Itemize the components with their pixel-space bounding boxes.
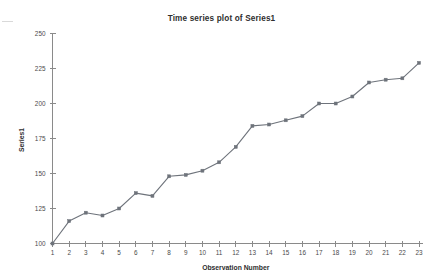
x-tick-label: 15 <box>282 249 290 256</box>
x-axis: 1234567891011121314151617181920212223 <box>51 241 423 256</box>
y-tick-label: 150 <box>35 170 46 177</box>
x-tick-label: 19 <box>349 249 357 256</box>
data-point-marker <box>384 78 387 81</box>
data-point-marker <box>68 220 71 223</box>
y-tick-label: 200 <box>35 100 46 107</box>
data-point-marker <box>284 119 287 122</box>
data-point-marker <box>418 61 421 64</box>
x-tick-label: 7 <box>151 249 155 256</box>
data-point-marker <box>368 81 371 84</box>
x-tick-label: 8 <box>167 249 171 256</box>
data-point-marker <box>401 77 404 80</box>
data-point-marker <box>318 102 321 105</box>
data-point-marker <box>134 192 137 195</box>
data-point-marker <box>51 242 54 245</box>
x-tick-label: 4 <box>101 249 105 256</box>
x-tick-label: 13 <box>249 249 257 256</box>
data-point-marker <box>101 214 104 217</box>
y-tick-label: 100 <box>35 240 46 247</box>
x-tick-label: 10 <box>199 249 207 256</box>
x-tick-label: 20 <box>365 249 373 256</box>
x-tick-label: 9 <box>184 249 188 256</box>
y-axis: 100125150175200225250 <box>35 30 56 247</box>
y-tick-label: 125 <box>35 205 46 212</box>
plot-area: 100125150175200225250 123456789101112131… <box>0 0 443 278</box>
x-tick-label: 6 <box>134 249 138 256</box>
data-point-marker <box>201 169 204 172</box>
y-axis-title: Series1 <box>18 128 25 152</box>
data-point-marker <box>334 102 337 105</box>
data-point-marker <box>218 161 221 164</box>
data-point-marker <box>268 123 271 126</box>
data-point-marker <box>351 95 354 98</box>
data-point-marker <box>84 211 87 214</box>
data-point-marker <box>118 207 121 210</box>
y-tick-label: 225 <box>35 65 46 72</box>
x-tick-label: 2 <box>67 249 71 256</box>
x-tick-label: 21 <box>382 249 390 256</box>
x-tick-label: 11 <box>216 249 223 256</box>
x-tick-label: 18 <box>332 249 340 256</box>
data-point-marker <box>168 175 171 178</box>
x-tick-label: 16 <box>299 249 307 256</box>
x-axis-title: Observation Number <box>202 264 270 271</box>
data-point-marker <box>184 173 187 176</box>
data-point-marker <box>234 145 237 148</box>
series-line <box>53 63 420 244</box>
x-tick-label: 12 <box>232 249 240 256</box>
time-series-chart: Time series plot of Series1 100125150175… <box>0 0 443 278</box>
data-point-marker <box>151 194 154 197</box>
x-tick-label: 22 <box>399 249 407 256</box>
y-tick-label: 250 <box>35 30 46 37</box>
data-point-marker <box>301 115 304 118</box>
x-tick-label: 3 <box>84 249 88 256</box>
x-tick-label: 1 <box>51 249 55 256</box>
y-tick-label: 175 <box>35 135 46 142</box>
x-tick-label: 17 <box>315 249 323 256</box>
x-tick-label: 5 <box>117 249 121 256</box>
data-point-marker <box>251 124 254 127</box>
series-series1 <box>51 61 421 245</box>
x-tick-label: 23 <box>415 249 423 256</box>
x-tick-label: 14 <box>266 249 274 256</box>
